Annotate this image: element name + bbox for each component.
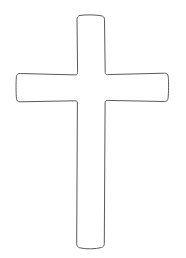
cross-figure xyxy=(0,0,186,258)
image-canvas xyxy=(0,0,186,258)
